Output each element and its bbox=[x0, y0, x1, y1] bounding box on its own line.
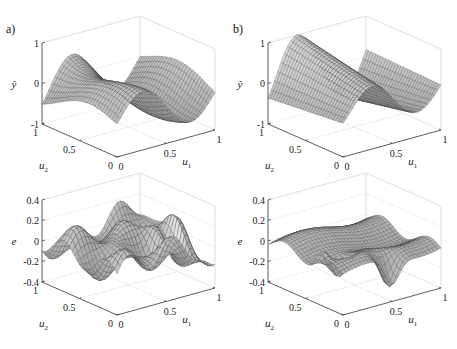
x-tick-label: 0 bbox=[119, 161, 124, 172]
y-axis-label: u2 bbox=[39, 159, 49, 174]
y-axis-label: u2 bbox=[39, 317, 49, 332]
z-axis-label: e bbox=[12, 235, 17, 247]
x-tick-label: 0 bbox=[119, 319, 124, 330]
figure: -101ŷ00.51u100.51u2 -101ŷ00.51u100.51u2 … bbox=[0, 0, 457, 349]
x-axis-label: u1 bbox=[408, 155, 418, 170]
y-tick-label: 0 bbox=[108, 318, 113, 329]
y-tick-label: 0.5 bbox=[63, 302, 76, 313]
z-axis-label: ŷ bbox=[11, 78, 17, 90]
z-tick-label: 0 bbox=[34, 236, 39, 247]
y-tick-label: 1 bbox=[259, 127, 264, 138]
x-axis-label: u1 bbox=[182, 313, 192, 328]
z-axis-label: ŷ bbox=[237, 78, 243, 90]
z-tick-label: -0.2 bbox=[249, 256, 265, 267]
z-tick-label: 0 bbox=[34, 78, 39, 89]
y-tick-label: 0 bbox=[334, 160, 339, 171]
z-tick-label: 0.4 bbox=[253, 195, 266, 206]
panel-label-a: a) bbox=[6, 22, 15, 36]
y-tick-label: 0.5 bbox=[63, 144, 76, 155]
x-tick-label: 1 bbox=[443, 292, 448, 303]
surface-mesh bbox=[268, 215, 441, 287]
x-tick-label: 1 bbox=[217, 292, 222, 303]
x-tick-label: 0.5 bbox=[164, 148, 177, 159]
plot-a-error: -0.4-0.200.20.4e00.51u100.51u2 bbox=[12, 173, 222, 332]
z-tick-label: 1 bbox=[34, 38, 39, 49]
y-tick-label: 1 bbox=[33, 285, 38, 296]
surface-mesh bbox=[42, 201, 215, 281]
plot-b-error: -0.4-0.200.20.4e00.51u100.51u2 bbox=[238, 173, 448, 332]
z-tick-label: 0.4 bbox=[27, 195, 40, 206]
z-tick-label: 0.2 bbox=[253, 215, 266, 226]
x-tick-label: 1 bbox=[217, 134, 222, 145]
x-axis-label: u1 bbox=[182, 155, 192, 170]
y-axis-label: u2 bbox=[265, 317, 275, 332]
y-tick-label: 0 bbox=[334, 318, 339, 329]
z-tick-label: 0.2 bbox=[27, 215, 40, 226]
z-tick-label: 0 bbox=[260, 78, 265, 89]
x-tick-label: 0.5 bbox=[390, 306, 403, 317]
plot-a-yhat: -101ŷ00.51u100.51u2 bbox=[11, 16, 222, 174]
y-tick-label: 1 bbox=[33, 127, 38, 138]
z-tick-label: -0.2 bbox=[23, 256, 39, 267]
x-tick-label: 0 bbox=[345, 319, 350, 330]
x-axis-label: u1 bbox=[408, 313, 418, 328]
surface-mesh bbox=[268, 35, 441, 123]
x-tick-label: 0.5 bbox=[390, 148, 403, 159]
x-tick-label: 1 bbox=[443, 134, 448, 145]
z-tick-label: 0 bbox=[260, 236, 265, 247]
y-tick-label: 0.5 bbox=[289, 144, 302, 155]
y-tick-label: 1 bbox=[259, 285, 264, 296]
z-axis-label: e bbox=[238, 235, 243, 247]
y-axis-label: u2 bbox=[265, 159, 275, 174]
y-tick-label: 0 bbox=[108, 160, 113, 171]
surface-mesh bbox=[42, 54, 215, 124]
plot-b-yhat: -101ŷ00.51u100.51u2 bbox=[237, 16, 448, 174]
z-tick-label: 1 bbox=[260, 38, 265, 49]
x-tick-label: 0 bbox=[345, 161, 350, 172]
x-tick-label: 0.5 bbox=[164, 306, 177, 317]
y-tick-label: 0.5 bbox=[289, 302, 302, 313]
panel-label-b: b) bbox=[233, 22, 243, 36]
